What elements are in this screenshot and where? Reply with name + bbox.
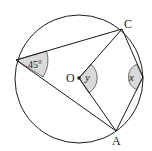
radius-OA: [79, 78, 116, 131]
chord-PC: [16, 29, 122, 60]
label-O: O: [66, 71, 75, 85]
angle-y-label: y: [84, 71, 90, 83]
angle-45-label: 45°: [28, 59, 42, 70]
label-C: C: [124, 17, 132, 31]
chord-BA: [116, 77, 143, 131]
center-point: [77, 76, 81, 80]
angle-x-label: x: [128, 71, 134, 83]
circle-diagram: C O A 45° y x: [0, 0, 152, 151]
diagram-canvas: C O A 45° y x: [0, 0, 152, 151]
label-A: A: [112, 134, 121, 148]
